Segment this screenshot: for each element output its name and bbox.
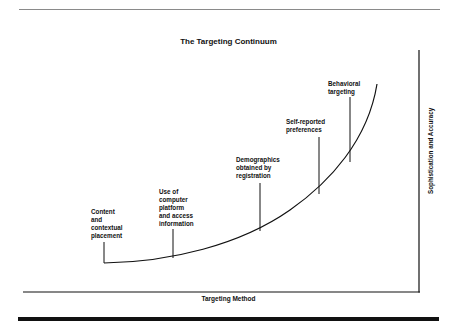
stage-label-content: Content and contextual placement [91,208,123,240]
stage-label-behavioral: Behavioral targeting [328,80,360,96]
y-axis-label: Sophistication and Accuracy [427,108,434,194]
bottom-rule [18,317,439,321]
continuum-diagram [0,0,457,321]
stage-label-self-reported: Self-reported preferences [286,118,325,134]
stage-label-demographics: Demographics obtained by registration [236,156,280,180]
stage-label-platform: Use of computer platform and access info… [159,188,194,228]
x-axis-label: Targeting Method [0,295,457,302]
